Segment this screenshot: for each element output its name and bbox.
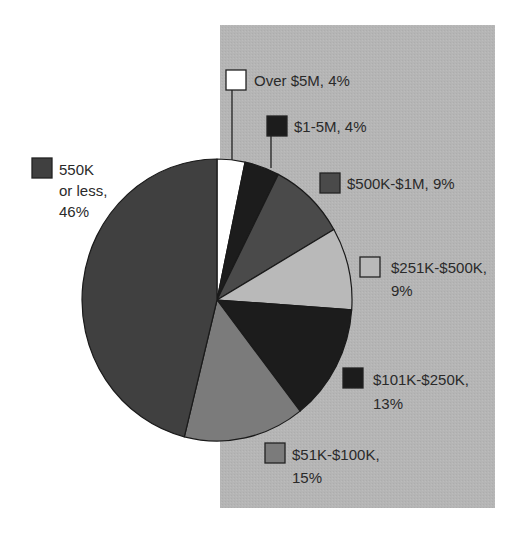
swatch-550k-or-less: [32, 158, 52, 178]
label-51k-100k-line2: 15%: [292, 469, 322, 486]
label-550k-line1: 550K: [59, 161, 94, 178]
swatch-251k-500k: [360, 257, 380, 277]
swatch-500k-1m: [320, 173, 340, 193]
label-1-5m: $1-5M, 4%: [294, 118, 367, 135]
swatch-over-5m: [226, 70, 246, 90]
label-550k-line3: 46%: [59, 203, 89, 220]
pie-slices: [82, 159, 352, 441]
label-over-5m: Over $5M, 4%: [254, 72, 350, 89]
label-101k-250k-line1: $101K-$250K,: [373, 371, 469, 388]
pie-chart: Over $5M, 4% $1-5M, 4% $500K-$1M, 9% $25…: [0, 0, 521, 533]
label-101k-250k-line2: 13%: [373, 395, 403, 412]
label-550k-line2: or less,: [59, 182, 107, 199]
label-51k-100k-line1: $51K-$100K,: [292, 446, 380, 463]
label-500k-1m: $500K-$1M, 9%: [347, 175, 455, 192]
swatch-1-5m: [267, 116, 287, 136]
label-251k-500k-line2: 9%: [391, 282, 413, 299]
swatch-51k-100k: [265, 443, 285, 463]
swatch-101k-250k: [343, 368, 363, 388]
label-251k-500k-line1: $251K-$500K,: [391, 259, 487, 276]
